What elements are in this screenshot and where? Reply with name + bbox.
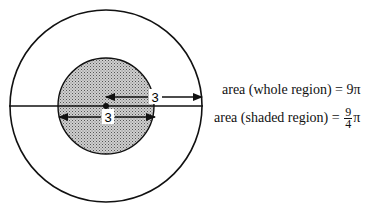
shaded-area-label: area (shaded region) = 9 4 π xyxy=(214,107,360,130)
whole-area-eq: = xyxy=(335,82,343,97)
outer-radius-label: 3 xyxy=(151,90,158,105)
whole-area-text: area (whole region) xyxy=(222,82,332,97)
whole-area-value: 9π xyxy=(347,82,361,97)
fraction-denominator: 4 xyxy=(344,119,352,130)
shaded-area-pi: π xyxy=(353,110,360,125)
center-dot xyxy=(103,103,109,109)
shaded-area-eq: = xyxy=(332,110,340,125)
circles-diagram: 3 3 xyxy=(0,0,215,207)
whole-area-label: area (whole region) = 9π xyxy=(222,82,361,98)
shaded-area-fraction: 9 4 xyxy=(344,107,352,130)
inner-diameter-label: 3 xyxy=(104,110,111,125)
shaded-area-text: area (shaded region) xyxy=(214,110,328,125)
